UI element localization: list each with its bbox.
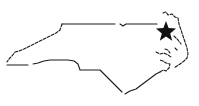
star-icon [0, 0, 199, 106]
state-map: North Carolina [0, 0, 199, 106]
